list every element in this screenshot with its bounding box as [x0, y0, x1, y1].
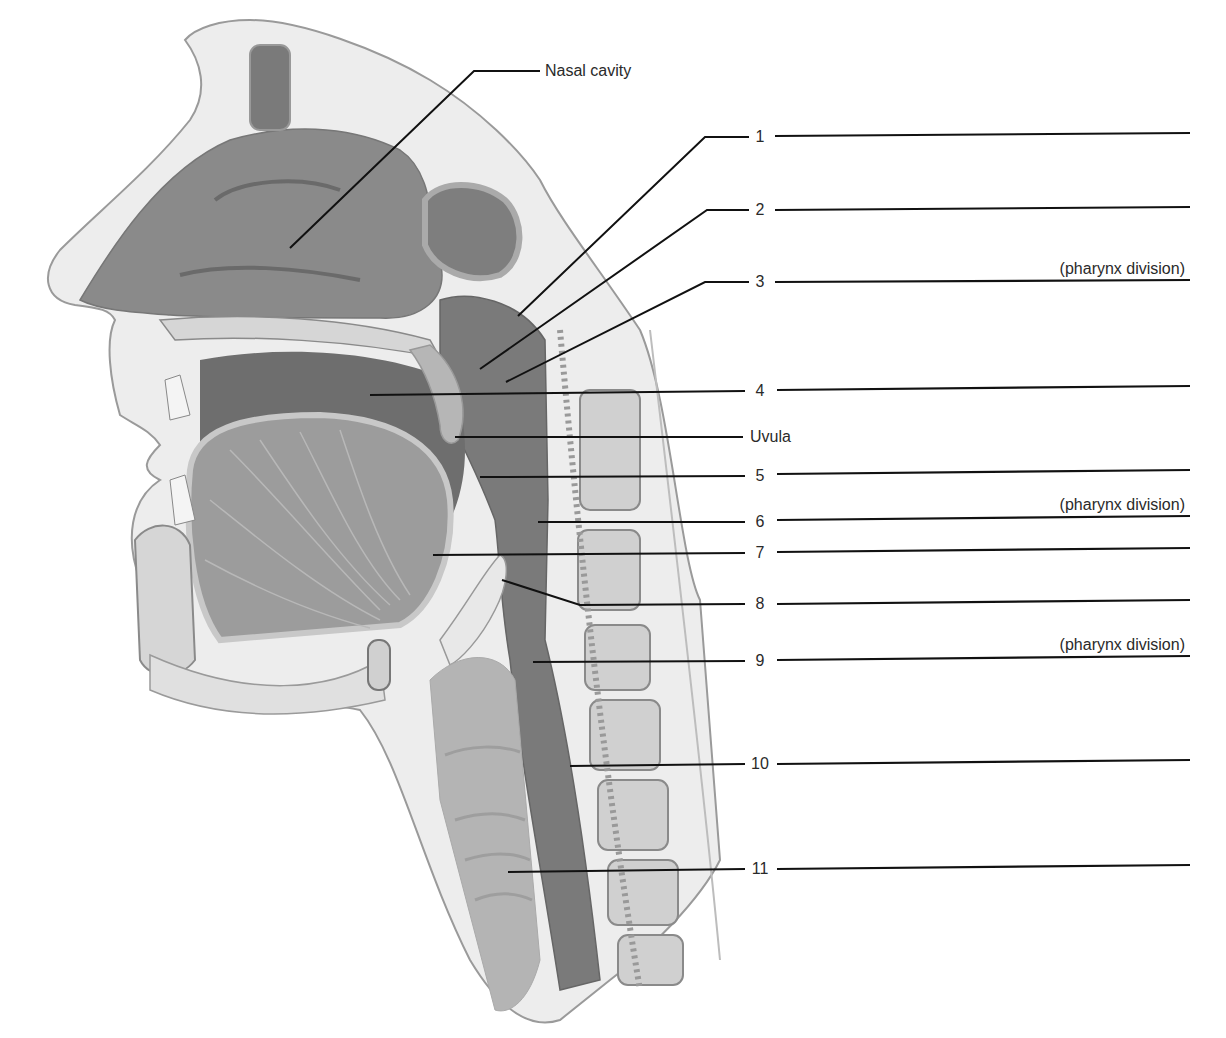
- label-number-4: 4: [753, 382, 768, 400]
- answer-blank-10: [777, 760, 1190, 764]
- label-number-11: 11: [749, 860, 772, 878]
- answer-blank-4: [777, 386, 1190, 390]
- leader-line-9: [533, 661, 745, 662]
- nasal-cavity-shape: [80, 129, 442, 318]
- label-number-8: 8: [753, 595, 768, 613]
- label-number-5: 5: [753, 467, 768, 485]
- answer-blank-7: [777, 548, 1190, 552]
- pharynx-division-hint-3: (pharynx division): [1060, 260, 1185, 278]
- label-number-3: 3: [753, 273, 768, 291]
- answer-blank-8: [777, 600, 1190, 604]
- answer-blank-1: [775, 133, 1190, 136]
- answer-blank-2: [775, 207, 1190, 210]
- label-number-7: 7: [753, 544, 768, 562]
- label-number-9: 9: [753, 652, 768, 670]
- leader-line-5: [480, 476, 745, 477]
- anatomy-illustration: [0, 0, 1226, 1038]
- pharynx-division-hint-6: (pharynx division): [1060, 496, 1185, 514]
- answer-blank-6: [777, 516, 1190, 520]
- answer-blank-11: [777, 865, 1190, 869]
- tongue-shape: [188, 415, 450, 640]
- label-number-1: 1: [753, 128, 768, 146]
- answer-blank-9: [777, 656, 1190, 660]
- label-number-2: 2: [753, 201, 768, 219]
- answer-blank-5: [777, 470, 1190, 474]
- label-nasal-cavity: Nasal cavity: [542, 62, 634, 80]
- pharynx-division-hint-9: (pharynx division): [1060, 636, 1185, 654]
- label-uvula: Uvula: [747, 428, 794, 446]
- label-number-6: 6: [753, 513, 768, 531]
- label-number-10: 10: [748, 755, 772, 773]
- answer-blank-3: [775, 280, 1190, 282]
